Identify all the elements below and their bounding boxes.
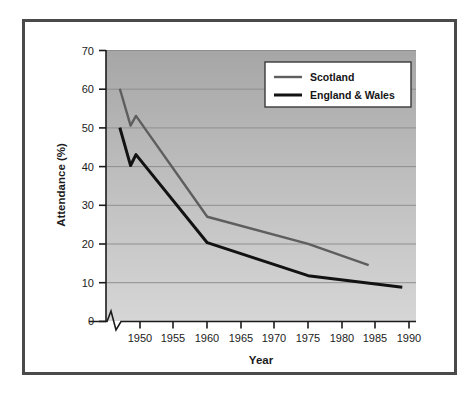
y-axis-tick-labels: 70 60 50 40 30 20 10 0	[82, 45, 94, 328]
ytick-label-20: 20	[82, 238, 94, 250]
ytick-label-40: 40	[82, 161, 94, 173]
xtick-label-1980: 1980	[330, 332, 354, 344]
xtick-label-1955: 1955	[161, 332, 185, 344]
xtick-label-1985: 1985	[363, 332, 387, 344]
x-axis-title: Year	[249, 354, 274, 366]
ytick-label-30: 30	[82, 199, 94, 211]
x-axis-ticks	[140, 322, 409, 329]
x-axis-tick-labels: 1950 1955 1960 1965 1970 1975 1980 1985 …	[128, 332, 421, 344]
y-axis-title: Attendance (%)	[55, 143, 67, 227]
xtick-label-1950: 1950	[128, 332, 152, 344]
ytick-label-70: 70	[82, 45, 94, 57]
chart-figure: 70 60 50 40 30 20 10 0	[0, 0, 476, 396]
xtick-label-1975: 1975	[296, 332, 320, 344]
ytick-label-60: 60	[82, 83, 94, 95]
y-axis-ticks	[99, 51, 106, 322]
legend-label-england-wales: England & Wales	[310, 89, 395, 101]
legend-label-scotland: Scotland	[310, 71, 354, 83]
xtick-label-1965: 1965	[229, 332, 253, 344]
ytick-label-0: 0	[88, 315, 94, 327]
ytick-label-50: 50	[82, 122, 94, 134]
legend: Scotland England & Wales	[265, 62, 411, 107]
xtick-label-1970: 1970	[262, 332, 286, 344]
attendance-line-chart: 70 60 50 40 30 20 10 0	[25, 22, 454, 372]
chart-outer-frame: 70 60 50 40 30 20 10 0	[22, 19, 457, 375]
xtick-label-1960: 1960	[195, 332, 219, 344]
ytick-label-10: 10	[82, 277, 94, 289]
xtick-label-1990: 1990	[397, 332, 421, 344]
